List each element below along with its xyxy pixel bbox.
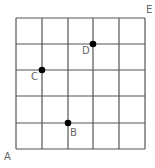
point-c-label: C <box>31 71 38 82</box>
point-d-dot <box>90 41 97 48</box>
point-d-label: D <box>82 45 90 56</box>
grid-diagram: A E B C D <box>0 0 155 168</box>
corner-label-e: E <box>146 4 152 15</box>
point-b-label: B <box>70 127 77 138</box>
corner-label-a: A <box>4 151 11 162</box>
corner-labels: A E <box>4 4 152 162</box>
point-b-dot <box>65 120 72 127</box>
grid-lines <box>16 18 145 149</box>
point-c-dot <box>39 67 46 74</box>
